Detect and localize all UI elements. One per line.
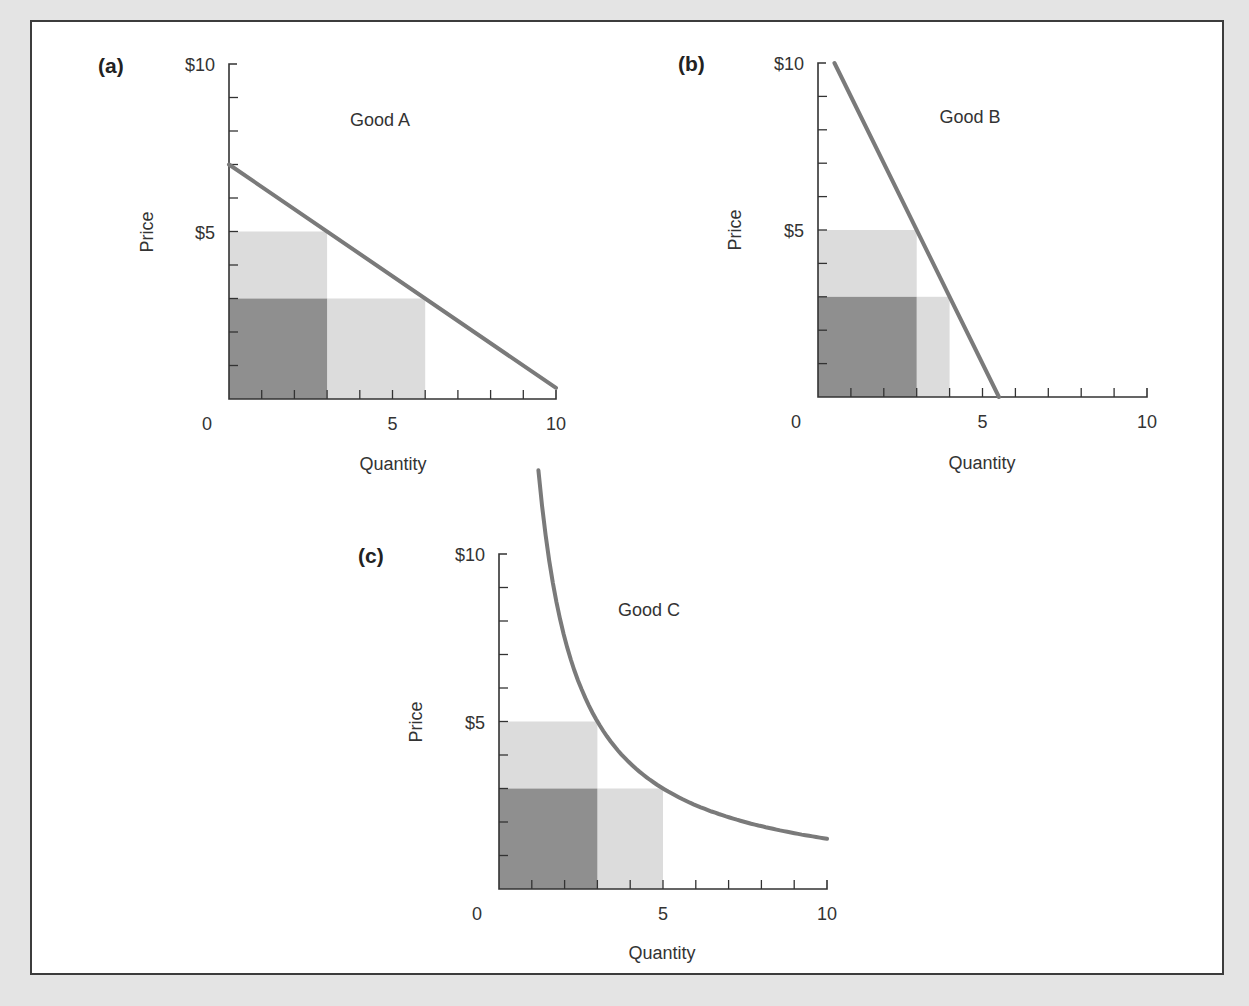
- x-tick-label-10: 10: [546, 414, 566, 434]
- y-axis-title: Price: [725, 209, 745, 250]
- shaded-region-revenue-at-price-5-upper: [499, 722, 597, 789]
- figure-canvas: 0510$5$10(a)Good AQuantityPrice0510$5$10…: [0, 0, 1249, 1006]
- x-axis-title: Quantity: [359, 454, 426, 474]
- y-tick-label-10: $10: [774, 54, 804, 74]
- x-tick-label-10: 10: [1137, 412, 1157, 432]
- chart-panel-c: 0510$5$10(c)Good CQuantityPrice: [358, 470, 837, 963]
- x-tick-label-5: 5: [977, 412, 987, 432]
- x-axis-title: Quantity: [948, 453, 1015, 473]
- x-tick-label-0: 0: [202, 414, 212, 434]
- chart-panel-a: 0510$5$10(a)Good AQuantityPrice: [98, 54, 566, 474]
- x-tick-label-5: 5: [658, 904, 668, 924]
- shaded-region-revenue-at-price-3-extra: [597, 789, 663, 890]
- y-tick-label-5: $5: [465, 713, 485, 733]
- shaded-region-revenue-at-price-5-upper: [818, 230, 917, 297]
- y-tick-label-5: $5: [784, 221, 804, 241]
- chart-title: Good C: [618, 600, 680, 620]
- x-tick-label-10: 10: [817, 904, 837, 924]
- chart-panel-b: 0510$5$10(b)Good BQuantityPrice: [678, 52, 1157, 473]
- y-axis-title: Price: [137, 211, 157, 252]
- shaded-region-revenue-at-price-3-extra: [327, 299, 425, 400]
- x-axis-title: Quantity: [628, 943, 695, 963]
- y-tick-label-5: $5: [195, 223, 215, 243]
- x-tick-label-5: 5: [387, 414, 397, 434]
- panel-label: (b): [678, 52, 705, 75]
- panel-label: (c): [358, 544, 384, 567]
- y-tick-label-10: $10: [185, 55, 215, 75]
- chart-title: Good A: [350, 110, 410, 130]
- y-axis-title: Price: [406, 701, 426, 742]
- shaded-region-revenue-at-price-3-extra: [917, 297, 950, 397]
- x-tick-label-0: 0: [791, 412, 801, 432]
- chart-title: Good B: [939, 107, 1000, 127]
- shaded-region-revenue-common: [818, 297, 917, 397]
- panel-label: (a): [98, 54, 124, 77]
- shaded-region-revenue-common: [499, 789, 597, 890]
- shaded-region-revenue-common: [229, 299, 327, 400]
- shaded-region-revenue-at-price-5-upper: [229, 232, 327, 299]
- y-tick-label-10: $10: [455, 545, 485, 565]
- x-tick-label-0: 0: [472, 904, 482, 924]
